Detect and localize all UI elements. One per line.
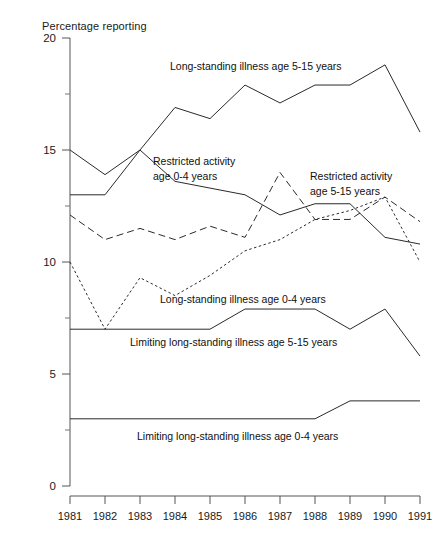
x-tick-label-1989: 1989 (338, 510, 362, 522)
x-tick-label-1985: 1985 (198, 510, 222, 522)
ann-llsi-515: Limiting long-standing illness age 5-15 … (130, 336, 337, 348)
ann-ra-515-l1: Restricted activity (310, 170, 393, 182)
chart-container: Percentage reporting 20 15 10 5 0 (0, 0, 448, 542)
x-tick-label-1981: 1981 (58, 510, 82, 522)
ann-lsi-04: Long-standing illness age 0-4 years (160, 293, 326, 305)
ann-lsi-515: Long-standing illness age 5-15 years (170, 60, 342, 72)
x-tick-label-1986: 1986 (233, 510, 257, 522)
y-tick-label-20: 20 (43, 32, 56, 44)
x-axis: 1981198219831984198519861987198819891990… (58, 496, 432, 522)
y-axis-major-ticks (62, 38, 70, 486)
x-tick-label-1984: 1984 (163, 510, 187, 522)
x-tick-label-1990: 1990 (373, 510, 397, 522)
x-axis-ticks (70, 496, 420, 504)
y-axis: 20 15 10 5 0 (43, 32, 70, 492)
ann-ra-04-l1: Restricted activity (153, 155, 236, 167)
x-tick-label-1982: 1982 (93, 510, 117, 522)
series-line-4 (70, 309, 420, 356)
y-tick-label-10: 10 (43, 256, 56, 268)
data-series-group (70, 65, 420, 419)
series-line-5 (70, 401, 420, 419)
x-tick-label-1983: 1983 (128, 510, 152, 522)
x-axis-labels: 1981198219831984198519861987198819891990… (58, 510, 432, 522)
ann-ra-515-l2: age 5-15 years (310, 185, 380, 197)
y-tick-label-0: 0 (50, 480, 56, 492)
series-line-1 (70, 150, 420, 244)
series-annotations: Long-standing illness age 5-15 yearsRest… (130, 60, 393, 442)
x-tick-label-1987: 1987 (268, 510, 292, 522)
ann-ra-04-l2: age 0-4 years (153, 170, 217, 182)
x-tick-label-1991: 1991 (408, 510, 432, 522)
chart-plot-area: 20 15 10 5 0 198119821983198419851986198… (0, 0, 448, 542)
ann-llsi-04: Limiting long-standing illness age 0-4 y… (137, 430, 338, 442)
x-tick-label-1988: 1988 (303, 510, 327, 522)
y-tick-label-15: 15 (43, 144, 56, 156)
y-tick-label-5: 5 (50, 368, 56, 380)
series-line-2 (70, 172, 420, 239)
